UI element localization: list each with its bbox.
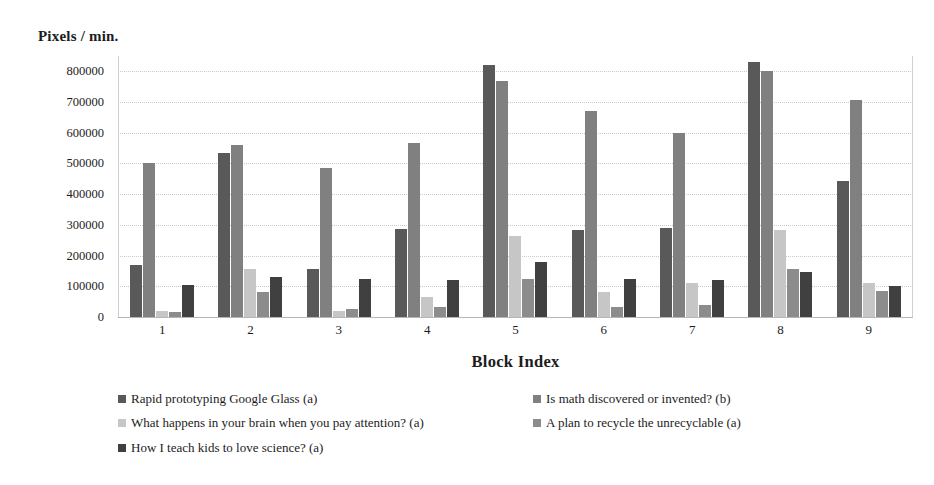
bar[interactable]: [535, 262, 547, 317]
bar[interactable]: [699, 305, 711, 317]
x-axis-title: Block Index: [118, 352, 913, 372]
legend-item[interactable]: Rapid prototyping Google Glass (a): [118, 392, 533, 406]
bar[interactable]: [483, 65, 495, 317]
bar[interactable]: [359, 279, 371, 317]
legend-item[interactable]: How I teach kids to love science? (a): [118, 441, 533, 455]
bar[interactable]: [748, 62, 760, 317]
bar[interactable]: [774, 230, 786, 318]
plot-area: [118, 56, 913, 317]
bar[interactable]: [421, 297, 433, 317]
bar[interactable]: [660, 228, 672, 317]
bars-layer: [118, 56, 913, 317]
legend-item[interactable]: A plan to recycle the unrecyclable (a): [533, 416, 873, 430]
bar[interactable]: [572, 230, 584, 318]
y-axis-tick-label: 100000: [67, 280, 105, 293]
bar[interactable]: [182, 285, 194, 317]
bar[interactable]: [800, 272, 812, 317]
x-axis-tick-label: 8: [736, 322, 824, 344]
bar[interactable]: [320, 168, 332, 317]
x-axis-tick-labels: 123456789: [118, 322, 913, 344]
x-axis-tick-label: 9: [825, 322, 913, 344]
legend-label: What happens in your brain when you pay …: [131, 416, 424, 430]
y-axis-tick-label: 700000: [67, 96, 105, 109]
y-axis-tick-labels: 0100000200000300000400000500000600000700…: [0, 56, 112, 317]
bar[interactable]: [889, 286, 901, 317]
x-axis-tick-label: 5: [471, 322, 559, 344]
x-axis-tick-label: 2: [206, 322, 294, 344]
legend-swatch-icon: [533, 419, 541, 427]
legend-swatch-icon: [118, 419, 126, 427]
bar[interactable]: [863, 283, 875, 317]
legend-label: How I teach kids to love science? (a): [131, 441, 323, 455]
legend-row: Rapid prototyping Google Glass (a)Is mat…: [118, 392, 878, 406]
bar-chart: Pixels / min. 01000002000003000004000005…: [0, 0, 934, 485]
y-axis-tick-label: 600000: [67, 127, 105, 140]
x-axis-tick-label: 7: [648, 322, 736, 344]
legend-row: What happens in your brain when you pay …: [118, 416, 878, 430]
bar[interactable]: [787, 269, 799, 317]
bar[interactable]: [447, 280, 459, 317]
bar[interactable]: [761, 71, 773, 317]
x-axis-tick-label: 4: [383, 322, 471, 344]
bar[interactable]: [611, 307, 623, 317]
bar-group: [206, 56, 294, 317]
bar[interactable]: [346, 309, 358, 317]
bar[interactable]: [434, 307, 446, 317]
bar[interactable]: [712, 280, 724, 317]
bar[interactable]: [837, 181, 849, 317]
bar[interactable]: [850, 100, 862, 317]
bar[interactable]: [156, 311, 168, 317]
legend-item[interactable]: Is math discovered or invented? (b): [533, 392, 873, 406]
bar[interactable]: [509, 236, 521, 317]
bar[interactable]: [244, 269, 256, 318]
legend-row: How I teach kids to love science? (a): [118, 441, 878, 455]
bar[interactable]: [270, 277, 282, 317]
legend: Rapid prototyping Google Glass (a)Is mat…: [118, 392, 878, 465]
legend-swatch-icon: [118, 444, 126, 452]
gridline: [118, 317, 913, 318]
bar[interactable]: [333, 311, 345, 317]
bar-group: [118, 56, 206, 317]
bar[interactable]: [496, 81, 508, 317]
bar-group: [736, 56, 824, 317]
bar[interactable]: [130, 265, 142, 317]
bar[interactable]: [307, 269, 319, 317]
bar-group: [560, 56, 648, 317]
y-axis-tick-label: 500000: [67, 157, 105, 170]
bar-group: [295, 56, 383, 317]
bar[interactable]: [257, 292, 269, 317]
bar-group: [383, 56, 471, 317]
x-axis-tick-label: 3: [295, 322, 383, 344]
y-axis-tick-label: 400000: [67, 188, 105, 201]
bar[interactable]: [408, 143, 420, 317]
bar[interactable]: [169, 312, 181, 317]
legend-swatch-icon: [533, 395, 541, 403]
bar[interactable]: [231, 145, 243, 317]
bar-group: [471, 56, 559, 317]
y-axis-tick-label: 0: [98, 311, 104, 324]
bar-group: [825, 56, 913, 317]
y-axis-title: Pixels / min.: [38, 28, 119, 45]
legend-label: A plan to recycle the unrecyclable (a): [546, 416, 741, 430]
y-axis-tick-label: 200000: [67, 249, 105, 262]
bar[interactable]: [598, 292, 610, 317]
bar-group: [648, 56, 736, 317]
bar[interactable]: [585, 111, 597, 317]
bar[interactable]: [218, 153, 230, 317]
y-axis-tick-label: 300000: [67, 219, 105, 232]
bar[interactable]: [673, 133, 685, 317]
x-axis-tick-label: 1: [118, 322, 206, 344]
legend-label: Rapid prototyping Google Glass (a): [131, 392, 317, 406]
legend-label: Is math discovered or invented? (b): [546, 392, 730, 406]
y-axis-tick-label: 800000: [67, 65, 105, 78]
bar[interactable]: [876, 291, 888, 317]
bar[interactable]: [143, 163, 155, 317]
bar[interactable]: [395, 229, 407, 317]
bar[interactable]: [624, 279, 636, 317]
x-axis-tick-label: 6: [560, 322, 648, 344]
legend-item[interactable]: What happens in your brain when you pay …: [118, 416, 533, 430]
bar[interactable]: [686, 283, 698, 317]
bar[interactable]: [522, 279, 534, 317]
legend-swatch-icon: [118, 395, 126, 403]
